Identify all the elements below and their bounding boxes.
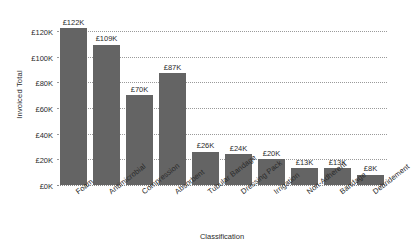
y-axis-tick-label: £120K bbox=[31, 27, 53, 36]
x-axis-title: Classification bbox=[57, 232, 387, 241]
bar-value-label: £26K bbox=[197, 141, 215, 150]
bar-value-label: £13K bbox=[296, 158, 314, 167]
bar-slot: £109K bbox=[90, 18, 123, 185]
bar-slot: £13K bbox=[288, 18, 321, 185]
bar-slot: £87K bbox=[156, 18, 189, 185]
bar-value-label: £20K bbox=[263, 149, 281, 158]
bar-slot: £122K bbox=[57, 18, 90, 185]
bar-slot: £8K bbox=[354, 18, 387, 185]
x-label-slot: Dressing Pack bbox=[222, 187, 255, 232]
y-axis-tick-label: £0K bbox=[40, 182, 53, 191]
x-label-slot: Tubular Bandage bbox=[189, 187, 222, 232]
y-axis-title: Invoiced Total bbox=[15, 45, 24, 145]
x-axis-tick-labels: FoamAntimicrobialCompressionAbsorbentTub… bbox=[57, 187, 387, 232]
bar-slot: £13K bbox=[321, 18, 354, 185]
y-axis-tick-label: £60K bbox=[35, 104, 53, 113]
x-label-slot: Compression bbox=[123, 187, 156, 232]
bar-value-label: £8K bbox=[364, 164, 377, 173]
bar-slot: £70K bbox=[123, 18, 156, 185]
x-label-slot: Non-Adherent bbox=[288, 187, 321, 232]
y-axis-tick-label: £20K bbox=[35, 156, 53, 165]
x-label-slot: Bandage bbox=[321, 187, 354, 232]
bar[interactable]: £109K bbox=[93, 45, 121, 185]
x-label-slot: Foam bbox=[57, 187, 90, 232]
bar-value-label: £70K bbox=[131, 85, 149, 94]
bar-slot: £26K bbox=[189, 18, 222, 185]
bar-value-label: £87K bbox=[164, 63, 182, 72]
bar[interactable]: £122K bbox=[60, 28, 88, 185]
y-axis-tick-label: £80K bbox=[35, 79, 53, 88]
bar-value-label: £109K bbox=[96, 34, 118, 43]
bar-value-label: £24K bbox=[230, 144, 248, 153]
y-axis-tick-label: £40K bbox=[35, 130, 53, 139]
x-label-slot: Absorbent bbox=[156, 187, 189, 232]
bar-value-label: £122K bbox=[63, 18, 85, 27]
x-label-slot: Irrigation bbox=[255, 187, 288, 232]
y-axis-tick-label: £100K bbox=[31, 53, 53, 62]
x-label-slot: Debridement bbox=[354, 187, 387, 232]
bar-slot: £20K bbox=[255, 18, 288, 185]
x-label-slot: Antimicrobial bbox=[90, 187, 123, 232]
bars: £122K£109K£70K£87K£26K£24K£20K£13K£13K£8… bbox=[57, 18, 387, 185]
plot-area: £0K£20K£40K£60K£80K£100K£120K £122K£109K… bbox=[57, 18, 387, 185]
